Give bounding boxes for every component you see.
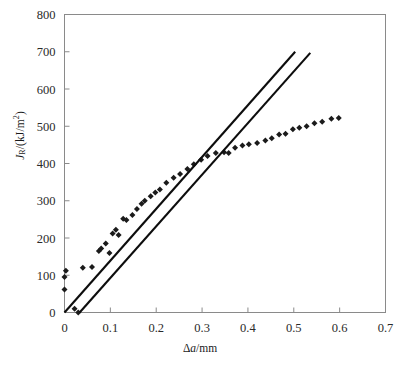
y-axis-label-unit: /(kJ/m [14, 119, 26, 149]
data-point-marker [163, 180, 169, 186]
figure-container: 010020030040050060070080000.10.20.30.40.… [0, 0, 400, 368]
data-point-marker [304, 123, 310, 129]
construction-line [65, 52, 296, 313]
data-series-layer [62, 52, 342, 316]
data-point-marker [296, 125, 302, 131]
data-point-marker [177, 171, 183, 177]
y-axis-tick-label: 700 [37, 45, 56, 59]
data-point-marker [262, 137, 268, 143]
axes-layer [65, 15, 386, 313]
data-point-marker [171, 175, 177, 181]
y-axis-tick-label: 600 [37, 83, 56, 97]
y-axis-tick-label: 400 [37, 157, 56, 171]
y-axis-label-exponent: 2 [12, 115, 21, 119]
y-axis-tick-label: 200 [37, 232, 56, 246]
x-axis-tick-label: 0.5 [286, 321, 302, 335]
x-axis-label-unit: /mm [196, 342, 217, 354]
data-point-marker [103, 241, 109, 247]
data-point-marker [328, 116, 334, 122]
data-point-marker [148, 193, 154, 199]
x-axis-tick-label: 0.6 [332, 321, 348, 335]
data-point-marker [226, 150, 232, 156]
y-axis-tick-label: 100 [37, 269, 56, 283]
data-point-marker [152, 190, 158, 196]
x-axis-tick-label: 0.1 [103, 321, 119, 335]
data-point-marker [89, 264, 95, 270]
y-axis-label-subscript: R [18, 149, 27, 154]
data-point-marker [232, 145, 238, 151]
data-point-marker [134, 206, 140, 212]
data-point-marker [336, 115, 342, 121]
data-point-marker [254, 140, 260, 146]
data-point-marker [276, 131, 282, 137]
y-axis-label-paren: ) [14, 111, 26, 115]
data-point-marker [63, 268, 69, 274]
x-axis-tick-label: 0.4 [240, 321, 256, 335]
y-axis-label: JR/(kJ/m2) [12, 91, 27, 181]
data-point-marker [269, 135, 275, 141]
x-axis-label: Δa/mm [0, 342, 400, 354]
data-point-marker [106, 250, 112, 256]
x-axis-tick-label: 0.3 [194, 321, 210, 335]
data-point-marker [129, 212, 135, 218]
data-point-marker [283, 131, 289, 137]
x-axis-tick-label: 0.7 [378, 321, 394, 335]
data-point-marker [72, 306, 78, 312]
data-point-marker [311, 120, 317, 126]
data-point-marker [319, 119, 325, 125]
data-point-marker [80, 265, 86, 271]
x-axis-tick-label: 0.2 [148, 321, 164, 335]
y-axis-label-symbol: J [14, 155, 26, 160]
data-point-marker [62, 286, 68, 292]
tick-label-layer: 010020030040050060070080000.10.20.30.40.… [37, 8, 394, 335]
data-point-marker [213, 150, 219, 156]
y-axis-tick-label: 800 [37, 8, 56, 22]
construction-line [80, 53, 311, 313]
y-axis-tick-label: 300 [37, 194, 56, 208]
data-point-marker [246, 141, 252, 147]
plot-frame [65, 15, 386, 313]
y-axis-tick-label: 0 [49, 306, 55, 320]
data-point-marker [290, 126, 296, 132]
data-point-marker [239, 143, 245, 149]
scatter-plot: 010020030040050060070080000.10.20.30.40.… [0, 0, 400, 368]
data-point-marker [157, 187, 163, 193]
data-point-marker [116, 232, 122, 238]
x-axis-tick-label: 0 [61, 321, 67, 335]
y-axis-tick-label: 500 [37, 120, 56, 134]
